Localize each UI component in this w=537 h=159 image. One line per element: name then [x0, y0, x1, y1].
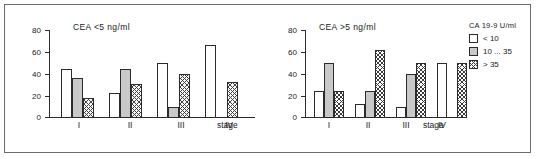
bar-group-stage-IV	[205, 30, 238, 118]
bar-series-right	[305, 30, 457, 118]
y-tick-label-0-right: 0	[275, 113, 297, 122]
bar-high-stage-II-gt35[interactable]	[375, 50, 385, 118]
bar-stage-II-10to35[interactable]	[120, 69, 131, 119]
legend-item-lt10[interactable]: < 10	[469, 34, 533, 43]
bar-high-stage-IV-lt10[interactable]	[437, 63, 447, 118]
y-tick-label-40-right: 40	[275, 70, 297, 79]
bar-high-stage-III-lt10[interactable]	[396, 107, 406, 118]
bar-high-stage-I-gt35[interactable]	[334, 91, 344, 119]
bar-group-stage-III	[157, 30, 190, 118]
y-tick-label-80-left: 80	[19, 26, 41, 35]
plot-area-left: 80 60 40 20 0	[49, 30, 255, 118]
bar-stage-I-gt35[interactable]	[83, 98, 94, 118]
y-tick-label-80-right: 80	[275, 26, 297, 35]
bar-group-stage-II	[109, 30, 142, 118]
legend-swatch-cross-hatch	[469, 60, 478, 69]
figure-frame: CEA <5 ng/ml 80 60 40 20 0	[4, 4, 531, 153]
y-tick-label-60-right: 60	[275, 48, 297, 57]
bar-stage-I-10to35[interactable]	[72, 78, 83, 118]
x-label-high-stage-III: III	[402, 120, 409, 130]
y-tick-label-0-left: 0	[19, 113, 41, 122]
plot-area-right: 80 60 40 20 0	[305, 30, 457, 118]
bar-stage-IV-lt10[interactable]	[205, 45, 216, 118]
bar-series-left	[49, 30, 255, 118]
y-tick-label-20-right: 20	[275, 92, 297, 101]
bar-stage-I-lt10[interactable]	[61, 69, 72, 119]
bar-stage-III-10to35[interactable]	[168, 107, 179, 118]
legend-label-10to35: 10 ... 35	[483, 47, 512, 56]
bar-stage-III-gt35[interactable]	[179, 74, 190, 118]
x-label-stage-II: II	[128, 120, 133, 130]
bar-stage-III-lt10[interactable]	[157, 63, 168, 118]
legend-item-10to35[interactable]: 10 ... 35	[469, 47, 533, 56]
bar-group-stage-III-high	[396, 30, 426, 118]
y-tick-label-40-left: 40	[19, 70, 41, 79]
x-axis-name-right: stage	[423, 120, 444, 130]
bar-high-stage-II-lt10[interactable]	[355, 104, 365, 118]
x-label-high-stage-I: I	[328, 120, 330, 130]
bar-group-stage-I-high	[314, 30, 344, 118]
bar-high-stage-III-gt35[interactable]	[416, 63, 426, 118]
x-axis-name-left: stage	[217, 120, 238, 130]
legend-label-gt35: > 35	[483, 60, 499, 69]
bar-high-stage-III-10to35[interactable]	[406, 74, 416, 118]
chart-panel-cea-high: CEA >5 ng/ml 80 60 40 20 0	[267, 5, 467, 154]
y-tick-label-20-left: 20	[19, 92, 41, 101]
bar-high-stage-I-10to35[interactable]	[324, 63, 334, 118]
chart-panel-cea-low: CEA <5 ng/ml 80 60 40 20 0	[5, 5, 267, 154]
bar-stage-II-gt35[interactable]	[131, 84, 142, 118]
bar-group-stage-II-high	[355, 30, 385, 118]
bar-high-stage-I-lt10[interactable]	[314, 91, 324, 119]
bar-stage-IV-gt35[interactable]	[227, 82, 238, 118]
legend-item-gt35[interactable]: > 35	[469, 60, 533, 69]
x-label-stage-I: I	[78, 120, 80, 130]
bar-high-stage-IV-gt35[interactable]	[457, 63, 467, 118]
legend-swatch-white	[469, 34, 478, 43]
legend-title: CA 19-9 U/ml	[469, 21, 533, 30]
x-label-stage-III: III	[177, 120, 184, 130]
legend-swatch-gray-stipple	[469, 47, 478, 56]
bar-high-stage-II-10to35[interactable]	[365, 91, 375, 119]
bar-group-stage-I	[61, 30, 94, 118]
legend-label-lt10: < 10	[483, 34, 499, 43]
bar-group-stage-IV-high	[437, 30, 467, 118]
x-label-high-stage-II: II	[366, 120, 371, 130]
bar-stage-II-lt10[interactable]	[109, 93, 120, 118]
legend: CA 19-9 U/ml < 10 10 ... 35 > 35	[469, 21, 533, 73]
y-tick-label-60-left: 60	[19, 48, 41, 57]
